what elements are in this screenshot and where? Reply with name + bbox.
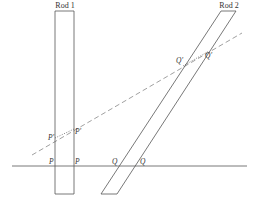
rod-2-label: Rod 2 xyxy=(219,1,238,10)
point-label: Q' xyxy=(176,56,183,65)
rod-1-label: Rod 1 xyxy=(55,1,74,10)
point-label: Q' xyxy=(205,51,212,60)
point-label: P xyxy=(48,157,54,166)
rod-2-shape xyxy=(101,11,236,194)
point-label: P' xyxy=(47,133,55,142)
rods-diagram: Rod 1 Rod 2 PPQQP'P'Q'Q' xyxy=(0,0,253,206)
rod-1-shape xyxy=(55,11,74,194)
point-label: Q xyxy=(140,157,146,166)
point-label: Q xyxy=(112,157,118,166)
point-labels: PPQQP'P'Q'Q' xyxy=(47,51,212,166)
point-label: P' xyxy=(74,127,82,136)
point-label: P xyxy=(74,157,80,166)
dotted-segment xyxy=(55,129,74,138)
